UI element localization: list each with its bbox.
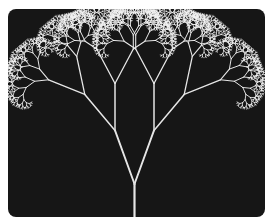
tree-twig xyxy=(230,42,231,43)
tree-twig xyxy=(231,53,236,59)
tree-twig xyxy=(245,94,246,99)
tree-twig xyxy=(235,44,237,48)
tree-twig xyxy=(68,36,74,40)
tree-branch xyxy=(154,49,172,83)
tree-twig xyxy=(165,52,167,54)
tree-twig xyxy=(255,92,256,96)
tree-twig xyxy=(165,48,169,50)
tree-twig xyxy=(8,88,9,89)
tree-twig xyxy=(109,35,110,36)
tree-twig xyxy=(45,42,46,45)
tree-twig xyxy=(106,9,107,10)
tree-twig xyxy=(252,74,254,76)
tree-twig xyxy=(104,44,107,49)
tree-twig xyxy=(246,94,250,97)
tree-twig xyxy=(244,71,248,77)
tree-twig xyxy=(114,29,115,30)
tree-twig xyxy=(142,18,146,19)
tree-twig xyxy=(41,54,42,55)
tree-twig xyxy=(123,14,125,16)
tree-twig xyxy=(59,54,60,55)
tree-twig xyxy=(80,24,81,32)
tree-branch xyxy=(229,66,239,70)
tree-twig xyxy=(12,71,14,73)
tree-branch xyxy=(114,40,124,41)
tree-branch xyxy=(145,32,150,41)
tree-twig xyxy=(261,72,262,73)
tree-twig xyxy=(72,19,73,23)
tree-twig xyxy=(92,19,93,20)
tree-twig xyxy=(48,34,53,36)
tree-twig xyxy=(99,36,102,38)
tree-twig xyxy=(231,47,232,48)
tree-twig xyxy=(19,54,20,55)
tree-twig xyxy=(255,70,258,71)
tree-twig xyxy=(166,57,167,58)
tree-twig xyxy=(172,19,174,21)
tree-twig xyxy=(254,63,255,64)
tree-twig xyxy=(66,22,67,23)
tree-twig xyxy=(69,22,70,23)
tree-branch xyxy=(115,49,133,83)
tree-twig xyxy=(238,49,239,50)
tree-branch xyxy=(188,43,192,56)
tree-twig xyxy=(241,60,242,61)
tree-twig xyxy=(204,52,206,54)
tree-twig xyxy=(100,48,104,50)
tree-twig xyxy=(254,78,255,79)
tree-twig xyxy=(201,23,202,28)
tree-twig xyxy=(256,102,257,103)
tree-twig xyxy=(222,28,223,29)
tree-twig xyxy=(122,13,123,15)
tree-twig xyxy=(14,86,19,88)
tree-twig xyxy=(43,51,45,53)
tree-twig xyxy=(205,26,208,27)
tree-twig xyxy=(237,44,238,45)
tree-twig xyxy=(66,19,67,20)
tree-twig xyxy=(249,55,250,56)
tree-branch xyxy=(135,130,155,184)
tree-twig xyxy=(218,48,220,49)
tree-twig xyxy=(92,22,93,23)
tree-twig xyxy=(223,51,224,54)
tree-branch xyxy=(184,56,192,94)
tree-twig xyxy=(224,51,226,53)
tree-twig xyxy=(209,31,210,34)
tree-twig xyxy=(205,57,206,58)
tree-twig xyxy=(227,46,230,47)
tree-twig xyxy=(105,27,106,31)
tree-branch xyxy=(80,32,85,41)
tree-branch xyxy=(35,80,49,81)
tree-branch xyxy=(49,80,85,95)
tree-twig xyxy=(164,9,166,10)
tree-branch xyxy=(145,40,155,41)
tree-twig xyxy=(202,27,203,31)
tree-twig xyxy=(229,46,230,51)
tree-twig xyxy=(226,54,227,55)
tree-branch xyxy=(26,81,34,87)
tree-branch xyxy=(136,49,154,83)
tree-twig xyxy=(15,74,17,76)
tree-twig xyxy=(244,61,246,62)
tree-twig xyxy=(46,28,47,29)
tree-twig xyxy=(160,28,161,29)
tree-twig xyxy=(223,42,224,45)
tree-branch xyxy=(38,59,40,69)
tree-twig xyxy=(198,24,199,25)
tree-twig xyxy=(151,24,152,27)
tree-twig xyxy=(117,24,118,27)
tree-twig xyxy=(243,100,246,103)
tree-twig xyxy=(66,57,67,58)
tree-twig xyxy=(98,35,99,36)
tree-twig xyxy=(168,18,169,19)
tree-twig xyxy=(12,70,15,71)
tree-twig xyxy=(174,18,175,21)
tree-twig xyxy=(13,65,17,66)
tree-twig xyxy=(221,43,223,45)
tree-twig xyxy=(19,87,27,88)
tree-branch xyxy=(124,41,136,49)
tree-branch xyxy=(154,94,184,130)
tree-twig xyxy=(146,13,147,15)
tree-branch xyxy=(192,46,201,57)
tree-twig xyxy=(108,32,109,33)
